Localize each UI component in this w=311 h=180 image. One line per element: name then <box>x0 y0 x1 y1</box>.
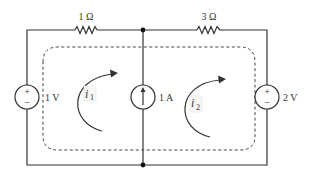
minus-sign: − <box>264 97 270 108</box>
voltage-source-2v: + − <box>255 85 279 109</box>
mesh-current-i2-label: i 2 <box>190 96 202 112</box>
wire-top-right <box>220 30 267 85</box>
svg-text:i: i <box>85 87 88 101</box>
svg-text:i: i <box>191 96 194 110</box>
mesh-current-i2-arrowhead <box>218 76 226 84</box>
mesh-current-i1-arrowhead <box>110 70 118 78</box>
voltage-source-2v-label: 2 V <box>283 92 298 103</box>
mesh-current-i1-label: i 1 <box>84 86 96 102</box>
plus-sign: + <box>24 86 30 97</box>
current-source-1a-label: 1 A <box>159 92 174 103</box>
node-bottom <box>141 163 146 168</box>
resistor-1ohm <box>75 27 97 34</box>
svg-text:2: 2 <box>196 103 200 112</box>
resistor-3ohm-label: 3 Ω <box>202 11 217 22</box>
node-top <box>141 28 146 33</box>
voltage-source-1v-label: 1 V <box>45 92 60 103</box>
current-source-1a <box>131 85 155 109</box>
voltage-source-1v: + − <box>15 85 39 109</box>
resistor-1ohm-label: 1 Ω <box>79 11 94 22</box>
wire-left-bottom <box>27 109 267 165</box>
resistor-3ohm <box>197 27 220 34</box>
wire-top-left <box>27 30 75 85</box>
minus-sign: − <box>24 97 30 108</box>
plus-sign: + <box>264 86 270 97</box>
circuit-diagram: 1 Ω 3 Ω + − 1 V 1 A + − 2 V i 1 i 2 <box>0 0 311 180</box>
mesh-current-i1-arrow <box>78 74 112 131</box>
svg-text:1: 1 <box>90 93 94 102</box>
